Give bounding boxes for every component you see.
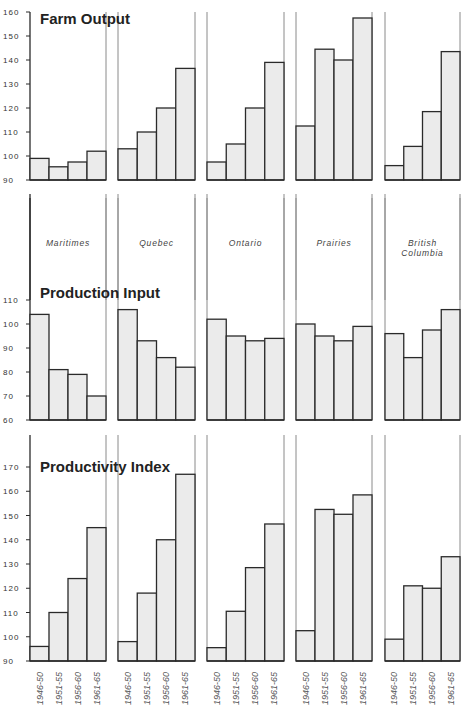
farm-output-bar-maritimes-1956-60 [68, 162, 87, 180]
x-label-quebec-1956-60: 1956-60 [161, 672, 171, 705]
x-label-ontario-1956-60: 1956-60 [250, 672, 260, 705]
production-input-bar-prairies-1946-50 [296, 324, 315, 420]
productivity-index-bar-ontario-1956-60 [246, 568, 265, 661]
x-label-british-columbia-1956-60: 1956-60 [427, 672, 437, 705]
productivity-index-bar-maritimes-1961-65 [87, 528, 106, 661]
productivity-index-y-tick-label: 170 [3, 463, 19, 472]
productivity-index-y-tick-label: 90 [3, 657, 14, 666]
production-input-y-tick-label: 90 [3, 344, 14, 353]
farm-output-bar-british-columbia-1956-60 [423, 112, 442, 180]
farm-output-bar-ontario-1946-50 [207, 162, 226, 180]
production-input-y-tick-label: 110 [3, 296, 19, 305]
production-input-bar-ontario-1951-55 [226, 336, 245, 420]
x-label-maritimes-1961-65: 1961-65 [92, 671, 102, 705]
productivity-index-y-tick-label: 160 [3, 487, 19, 496]
x-label-prairies-1946-50: 1946-50 [301, 672, 311, 705]
productivity-index-bar-maritimes-1946-50 [30, 646, 49, 661]
productivity-index-bar-prairies-1961-65 [353, 495, 372, 661]
production-input-y-tick-label: 80 [3, 368, 14, 377]
farm-output-bar-ontario-1961-65 [265, 62, 284, 180]
x-label-ontario-1961-65: 1961-65 [269, 671, 279, 705]
x-label-quebec-1946-50: 1946-50 [123, 672, 133, 705]
productivity-index-bar-ontario-1961-65 [265, 524, 284, 661]
production-input-bar-british-columbia-1946-50 [385, 334, 404, 420]
region-label-british-columbia: Columbia [401, 248, 443, 258]
productivity-index-bar-british-columbia-1956-60 [423, 588, 442, 661]
region-label-ontario: Ontario [229, 238, 262, 248]
productivity-index-y-tick-label: 100 [3, 633, 19, 642]
farm-output-y-tick-label: 150 [3, 32, 19, 41]
productivity-index-bar-quebec-1951-55 [137, 593, 156, 661]
farm-output-bar-quebec-1956-60 [157, 108, 176, 180]
farm-output-bar-british-columbia-1961-65 [441, 52, 460, 180]
chart-title-production-input: Production Input [40, 284, 160, 301]
x-label-quebec-1961-65: 1961-65 [180, 671, 190, 705]
productivity-index-y-tick-label: 120 [3, 584, 19, 593]
farm-output-y-tick-label: 100 [3, 152, 19, 161]
productivity-index-bar-prairies-1951-55 [315, 509, 334, 661]
x-label-prairies-1956-60: 1956-60 [339, 672, 349, 705]
farm-output-bar-maritimes-1946-50 [30, 158, 49, 180]
x-label-british-columbia-1961-65: 1961-65 [446, 671, 456, 705]
farm-output-y-tick-label: 140 [3, 56, 19, 65]
productivity-index-bar-ontario-1946-50 [207, 648, 226, 661]
farm-output-bar-quebec-1946-50 [118, 149, 137, 180]
farm-output-bar-quebec-1961-65 [176, 68, 195, 180]
production-input-bar-maritimes-1961-65 [87, 396, 106, 420]
region-label-quebec: Quebec [139, 238, 174, 248]
production-input-bar-prairies-1961-65 [353, 326, 372, 420]
production-input-bar-quebec-1946-50 [118, 310, 137, 420]
production-input-bar-quebec-1956-60 [157, 358, 176, 420]
production-input-bar-british-columbia-1961-65 [441, 310, 460, 420]
x-label-maritimes-1951-55: 1951-55 [54, 671, 64, 705]
farm-output-y-tick-label: 130 [3, 80, 19, 89]
production-input-bar-maritimes-1956-60 [68, 374, 87, 420]
productivity-index-bar-prairies-1956-60 [334, 514, 353, 661]
farm-output-bar-prairies-1961-65 [353, 18, 372, 180]
x-label-maritimes-1956-60: 1956-60 [73, 672, 83, 705]
x-label-british-columbia-1951-55: 1951-55 [408, 671, 418, 705]
production-input-bar-ontario-1946-50 [207, 319, 226, 420]
productivity-index-y-tick-label: 140 [3, 536, 19, 545]
productivity-index-bar-maritimes-1956-60 [68, 579, 87, 661]
production-input-bar-quebec-1951-55 [137, 341, 156, 420]
farm-output-bar-british-columbia-1946-50 [385, 166, 404, 180]
production-input-bar-british-columbia-1951-55 [404, 358, 423, 420]
productivity-index-bar-quebec-1946-50 [118, 642, 137, 661]
x-label-ontario-1951-55: 1951-55 [231, 671, 241, 705]
farm-output-y-tick-label: 120 [3, 104, 19, 113]
productivity-index-bar-prairies-1946-50 [296, 631, 315, 661]
production-input-bar-ontario-1961-65 [265, 338, 284, 420]
productivity-index-bar-ontario-1951-55 [226, 611, 245, 661]
region-label-maritimes: Maritimes [46, 238, 90, 248]
farm-output-y-tick-label: 110 [3, 128, 19, 137]
productivity-index-bar-british-columbia-1961-65 [441, 557, 460, 661]
farm-output-y-tick-label: 90 [3, 176, 14, 185]
x-label-ontario-1946-50: 1946-50 [212, 672, 222, 705]
regional-farm-productivity-chart: Farm Output Production Input Productivit… [0, 0, 462, 707]
farm-output-y-tick-label: 160 [3, 8, 19, 17]
region-label-prairies: Prairies [316, 238, 351, 248]
productivity-index-y-tick-label: 110 [3, 609, 19, 618]
farm-output-bar-british-columbia-1951-55 [404, 146, 423, 180]
production-input-bar-ontario-1956-60 [246, 341, 265, 420]
farm-output-bar-prairies-1956-60 [334, 60, 353, 180]
farm-output-bar-ontario-1956-60 [246, 108, 265, 180]
production-input-bar-prairies-1956-60 [334, 341, 353, 420]
production-input-bar-british-columbia-1956-60 [423, 330, 442, 420]
x-label-prairies-1961-65: 1961-65 [358, 671, 368, 705]
x-label-british-columbia-1946-50: 1946-50 [389, 672, 399, 705]
farm-output-bar-maritimes-1951-55 [49, 167, 68, 180]
x-label-quebec-1951-55: 1951-55 [142, 671, 152, 705]
production-input-bar-prairies-1951-55 [315, 336, 334, 420]
productivity-index-bar-british-columbia-1951-55 [404, 586, 423, 661]
farm-output-bar-quebec-1951-55 [137, 132, 156, 180]
productivity-index-bar-quebec-1961-65 [176, 474, 195, 661]
production-input-y-tick-label: 70 [3, 392, 14, 401]
farm-output-bar-prairies-1946-50 [296, 126, 315, 180]
region-label-british-columbia: British [408, 238, 437, 248]
x-label-prairies-1951-55: 1951-55 [320, 671, 330, 705]
productivity-index-y-tick-label: 150 [3, 512, 19, 521]
production-input-bar-maritimes-1946-50 [30, 314, 49, 420]
productivity-index-y-tick-label: 130 [3, 560, 19, 569]
